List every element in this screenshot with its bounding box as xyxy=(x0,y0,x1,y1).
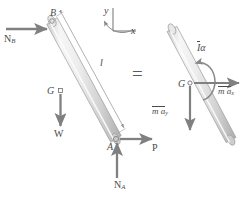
label-force-p: P xyxy=(152,143,158,153)
label-moment-i-alpha: Iα xyxy=(197,43,206,53)
label-point-g: G xyxy=(47,86,54,96)
label-force-nb-subscript: B xyxy=(11,37,15,44)
overbar-ay xyxy=(152,106,164,107)
figure-canvas: = B G A l NB W NA P y x G Iα m ax m ay xyxy=(0,0,252,199)
label-inertia-may-symbol: m a xyxy=(152,106,165,116)
label-axis-x: x xyxy=(131,26,135,36)
label-inertia-max-subscript: x xyxy=(231,90,234,96)
label-force-w: W xyxy=(54,129,63,139)
overbar-i xyxy=(197,41,200,42)
label-force-na: NA xyxy=(114,180,125,191)
equals-sign: = xyxy=(132,63,143,85)
label-moment-alpha-symbol: α xyxy=(200,42,205,53)
label-length-l: l xyxy=(100,58,103,68)
figure-vector-layer xyxy=(0,0,252,199)
label-point-b: B xyxy=(50,8,56,18)
kinetic-point-g-marker xyxy=(188,81,192,85)
label-inertia-max-symbol: m a xyxy=(218,86,231,96)
overbar-ax xyxy=(218,86,230,87)
label-inertia-may: m ay xyxy=(152,107,168,116)
label-inertia-max: m ax xyxy=(218,87,234,96)
label-force-nb: NB xyxy=(4,34,15,45)
fbd-dimension-line-l xyxy=(56,12,126,133)
fbd-point-g-marker xyxy=(59,89,63,93)
fbd-rod xyxy=(46,14,122,146)
label-inertia-may-subscript: y xyxy=(165,110,168,116)
label-kinetic-point-g: G xyxy=(178,79,185,89)
label-force-na-subscript: A xyxy=(121,183,125,190)
fbd-point-a-marker xyxy=(113,136,118,141)
label-axis-y: y xyxy=(104,6,108,16)
fbd-point-b-marker xyxy=(50,19,55,24)
label-moment-i-symbol: I xyxy=(197,42,200,53)
label-point-a: A xyxy=(107,142,113,152)
